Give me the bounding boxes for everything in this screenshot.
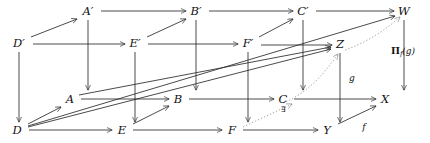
edge-Y-to-X — [338, 106, 376, 124]
edge-label-g: g — [349, 74, 355, 83]
node-X: X — [381, 94, 389, 106]
pi-operator-label: Πf(g) — [391, 46, 415, 57]
edge-Dprime-to-Aprime — [31, 19, 77, 37]
exists-symbol: ∃ — [281, 106, 286, 114]
edge-A-to-Z — [79, 47, 331, 95]
node-Bprime: B′ — [190, 6, 201, 18]
node-B: B — [174, 94, 182, 106]
node-Aprime: A′ — [83, 6, 94, 18]
edge-X-to-Z-curve — [283, 54, 338, 103]
node-F: F — [228, 125, 236, 137]
node-W: W — [398, 6, 410, 18]
pi-symbol: Π — [391, 45, 400, 56]
node-Y: Y — [323, 125, 331, 137]
edge-E-to-B — [133, 106, 169, 124]
node-Eprime: E′ — [129, 38, 140, 50]
edge-Eprime-to-Bprime — [147, 19, 186, 37]
node-Fprime: F′ — [243, 38, 254, 50]
node-C: C — [279, 94, 288, 106]
pi-argument: (g) — [402, 46, 415, 56]
node-A: A — [66, 94, 74, 106]
diagram-canvas: A′ B′ C′ W D′ E′ F′ Z A B C X D E F Y g … — [0, 0, 430, 143]
edge-D-to-Z — [28, 49, 331, 127]
edge-label-f: f — [362, 123, 365, 132]
node-D: D — [12, 125, 21, 137]
node-Cprime: C′ — [297, 6, 308, 18]
edge-Fprime-to-Cprime — [259, 19, 293, 37]
node-Z: Z — [336, 39, 344, 51]
node-E: E — [118, 125, 126, 137]
node-Dprime: D′ — [13, 38, 25, 50]
